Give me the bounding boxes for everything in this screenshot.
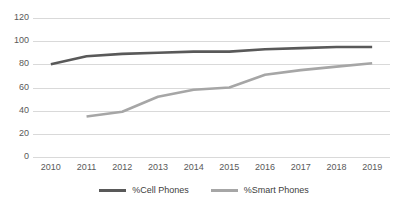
y-axis-tick-label: 100 bbox=[3, 36, 29, 45]
x-axis-tick-label: 2015 bbox=[219, 163, 239, 172]
y-axis-tick-label: 120 bbox=[3, 13, 29, 22]
y-axis-tick-label: 80 bbox=[3, 59, 29, 68]
legend-item[interactable]: %Smart Phones bbox=[211, 186, 309, 195]
x-axis-tick-label: 2012 bbox=[112, 163, 132, 172]
y-axis-tick-label: 0 bbox=[3, 152, 29, 161]
legend-swatch-icon bbox=[211, 189, 238, 192]
x-axis-tick-label: 2010 bbox=[41, 163, 61, 172]
x-axis-tick-label: 2016 bbox=[255, 163, 275, 172]
y-axis-tick-label: 40 bbox=[3, 106, 29, 115]
line-chart: 020406080100120 201020112012201320142015… bbox=[0, 0, 408, 211]
series-line bbox=[87, 63, 373, 116]
chart-legend: %Cell Phones%Smart Phones bbox=[0, 186, 408, 195]
series-line bbox=[51, 47, 372, 64]
x-axis-tick-label: 2011 bbox=[77, 163, 96, 172]
legend-swatch-icon bbox=[99, 189, 126, 192]
y-axis: 020406080100120 bbox=[0, 18, 29, 157]
legend-label: %Smart Phones bbox=[244, 186, 309, 195]
legend-item[interactable]: %Cell Phones bbox=[99, 186, 189, 195]
legend-label: %Cell Phones bbox=[132, 186, 189, 195]
x-axis: 2010201120122013201420152016201720182019 bbox=[33, 163, 390, 177]
x-axis-tick-label: 2018 bbox=[326, 163, 346, 172]
plot-area bbox=[33, 18, 390, 157]
x-axis-tick-label: 2019 bbox=[362, 163, 382, 172]
series-layer bbox=[33, 18, 390, 157]
y-axis-tick-label: 20 bbox=[3, 129, 29, 138]
x-axis-tick-label: 2014 bbox=[184, 163, 204, 172]
x-axis-tick-label: 2017 bbox=[291, 163, 311, 172]
gridline bbox=[33, 157, 390, 158]
x-axis-tick-label: 2013 bbox=[148, 163, 168, 172]
y-axis-tick-label: 60 bbox=[3, 83, 29, 92]
